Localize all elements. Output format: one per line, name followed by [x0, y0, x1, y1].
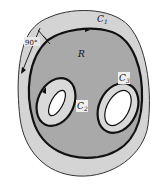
region-diagram: 90° R C1 C2 C3: [0, 0, 158, 188]
angle-label: 90°: [25, 39, 37, 47]
region-label: R: [77, 49, 85, 59]
